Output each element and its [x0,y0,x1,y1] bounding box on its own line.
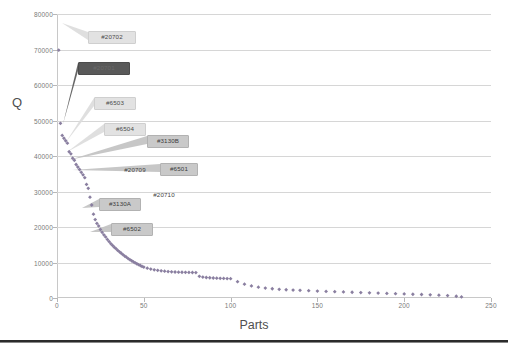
data-point-marker [225,277,229,281]
data-point-marker [194,271,198,275]
data-point-marker [277,287,281,291]
data-point-marker [298,288,302,292]
data-point-marker [145,266,149,270]
x-axis-title: Parts [0,318,508,332]
data-point-marker [256,285,260,289]
data-point-marker [204,276,208,280]
data-point-marker [92,212,96,216]
y-axis-tick-label: 50000 [34,117,53,124]
data-point-marker [83,176,87,180]
data-point-marker [324,289,328,293]
x-axis-tick-label: 250 [485,302,496,309]
data-point-marker [428,293,432,297]
data-point-marker [446,294,450,298]
x-axis-tick-label: 0 [55,302,59,309]
data-point-marker [88,195,92,199]
y-axis-tick-label: 70000 [34,46,53,53]
data-point-marker [460,295,464,299]
callout-label: #3130B [147,135,189,148]
callout-leader-line [62,23,88,40]
data-point-marker [291,288,295,292]
callout-leader-line [67,124,104,152]
data-point-marker [236,280,240,284]
callout-label: #20709 [114,164,156,177]
data-point-marker [173,270,177,274]
data-point-marker [437,293,441,297]
callout-leader-line [69,136,147,160]
callout-label: #20701 [78,62,130,75]
chart-figure: Q 01000020000300004000050000600007000080… [0,0,508,348]
data-point-marker [218,276,222,280]
data-point-marker [60,134,64,138]
data-point-marker [270,287,274,291]
callout-leader-line [63,63,78,124]
data-point-marker [180,270,184,274]
callout-label: #6501 [160,163,198,176]
data-point-marker [229,277,233,281]
data-point-marker [411,292,415,296]
callout-label: #6504 [104,123,146,136]
data-point-marker [385,291,389,295]
x-axis-tick-label: 150 [312,302,323,309]
data-point-marker [201,275,205,279]
x-axis-tick-label: 200 [398,302,409,309]
data-point-marker [376,291,380,295]
y-axis-tick-label: 40000 [34,153,53,160]
data-point-marker [359,291,363,295]
data-point-marker [402,292,406,296]
data-point-marker [368,291,372,295]
y-axis-tick-label: 10000 [34,259,53,266]
data-point-marker [59,121,63,125]
data-point-marker [263,286,267,290]
data-point-marker [184,270,188,274]
y-axis-tick-label: 60000 [34,82,53,89]
data-point-marker [250,284,254,288]
bottom-divider-shadow [0,342,508,343]
data-point-marker [394,292,398,296]
y-axis-tick-label: 80000 [34,11,53,18]
data-point-marker [159,269,163,273]
callout-label: #6503 [94,97,136,110]
data-series-layer [57,14,491,298]
data-point-marker [93,218,97,222]
data-point-marker [208,276,212,280]
data-point-marker [211,276,215,280]
data-point-marker [57,48,61,52]
data-point-marker [170,270,174,274]
data-point-marker [166,270,170,274]
y-axis-tick-label: 30000 [34,188,53,195]
data-point-marker [152,268,156,272]
data-point-marker [86,186,90,190]
data-point-marker [284,288,288,292]
data-point-marker [187,271,191,275]
data-point-marker [350,290,354,294]
y-axis-tick-label: 20000 [34,224,53,231]
x-axis-tick-labels: 050100150200250 [57,302,491,316]
data-point-marker [333,290,337,294]
x-axis-tick-label: 50 [140,302,148,309]
callout-label: #20710 [142,189,186,202]
data-point-marker [342,290,346,294]
data-point-marker [307,289,311,293]
data-point-marker [197,274,201,278]
data-point-marker [243,282,247,286]
data-point-marker [149,267,153,271]
plot-area: #20702#20701#6503#6504#3130B#20709#6501#… [57,14,491,298]
data-point-marker [454,294,458,298]
data-point-marker [156,268,160,272]
x-axis-tick-label: 100 [225,302,236,309]
callout-label: #3130A [99,198,141,211]
data-point-marker [177,270,181,274]
data-point-marker [215,276,219,280]
data-point-marker [191,271,195,275]
callout-label: #20702 [88,31,136,44]
data-point-marker [163,269,167,273]
data-point-marker [85,183,89,187]
data-point-marker [222,277,226,281]
data-point-marker [420,293,424,297]
y-axis-tick-labels: 0100002000030000400005000060000700008000… [12,14,53,298]
callout-label: #6502 [111,223,153,236]
callout-leader-line [82,199,99,208]
data-point-marker [316,289,320,293]
